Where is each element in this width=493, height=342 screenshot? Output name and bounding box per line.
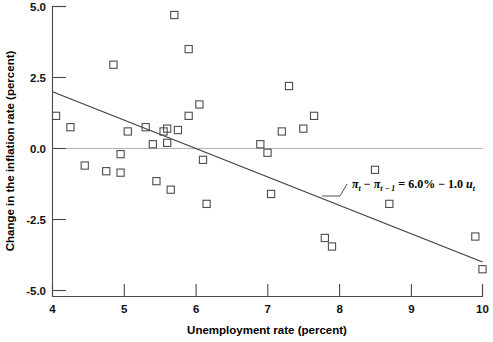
y-tick-label-0: 5.0 (30, 1, 46, 13)
data-point-marker (203, 200, 210, 207)
x-tick-label-1: 5 (121, 303, 128, 315)
data-point-marker (328, 243, 335, 250)
data-point-marker (52, 112, 59, 119)
x-axis-title: Unemployment rate (percent) (187, 324, 347, 336)
y-axis-title: Change in the inflation rate (percent) (4, 51, 16, 252)
data-point-marker (171, 11, 178, 18)
data-point-marker (164, 139, 171, 146)
data-point-marker (185, 46, 192, 53)
data-point-marker (479, 266, 486, 273)
y-axis-ticks (53, 7, 67, 291)
x-tick-label-0: 4 (49, 303, 56, 315)
data-point-marker (153, 178, 160, 185)
data-point-marker (257, 141, 264, 148)
data-point-marker (321, 234, 328, 241)
scatter-plot-canvas: 5.0 2.5 0.0 -2.5 -5.0 4 5 6 7 8 9 10 U (0, 0, 493, 342)
data-point-marker (117, 151, 124, 158)
data-point-marker (185, 112, 192, 119)
data-point-marker (285, 82, 292, 89)
data-point-marker (267, 190, 274, 197)
data-point-marker (278, 128, 285, 135)
x-tick-label-6: 10 (476, 303, 489, 315)
data-point-marker (472, 233, 479, 240)
data-point-marker (103, 168, 110, 175)
data-point-marker (167, 186, 174, 193)
y-tick-label-2: 0.0 (30, 143, 46, 155)
data-point-marker (371, 166, 378, 173)
data-point-marker (81, 162, 88, 169)
x-tick-label-3: 7 (265, 303, 271, 315)
y-tick-label-3: -2.5 (26, 214, 46, 226)
eq-sub-t-minus-1: t − 1 (380, 184, 395, 193)
data-point-marker (196, 101, 203, 108)
eq-sub-t-2: t (473, 184, 476, 193)
x-axis-tick-labels: 4 5 6 7 8 9 10 (49, 303, 489, 315)
data-point-marker (67, 124, 74, 131)
x-axis-ticks (53, 284, 483, 297)
data-point-marker (117, 169, 124, 176)
data-point-marker (264, 149, 271, 156)
eq-slope: 1.0 (448, 177, 463, 191)
x-tick-label-5: 9 (408, 303, 414, 315)
chart-figure: 5.0 2.5 0.0 -2.5 -5.0 4 5 6 7 8 9 10 U (0, 0, 493, 342)
data-point-group (52, 11, 486, 272)
y-axis-tick-labels: 5.0 2.5 0.0 -2.5 -5.0 (26, 1, 46, 297)
y-tick-label-4: -5.0 (26, 285, 46, 297)
annotation-leader-line (322, 184, 347, 196)
data-point-marker (149, 141, 156, 148)
y-tick-label-1: 2.5 (30, 72, 47, 84)
data-point-marker (124, 128, 131, 135)
data-point-marker (300, 125, 307, 132)
data-point-marker (386, 200, 393, 207)
data-point-marker (199, 156, 206, 163)
equation-text: πt − πt − 1 = 6.0% − 1.0 ut (352, 177, 476, 193)
eq-intercept: 6.0% (408, 177, 435, 191)
data-point-marker (174, 126, 181, 133)
equation-annotation: πt − πt − 1 = 6.0% − 1.0 ut (352, 177, 476, 193)
data-point-marker (310, 112, 317, 119)
x-tick-label-4: 8 (336, 303, 343, 315)
data-point-marker (110, 61, 117, 68)
x-tick-label-2: 6 (193, 303, 199, 315)
